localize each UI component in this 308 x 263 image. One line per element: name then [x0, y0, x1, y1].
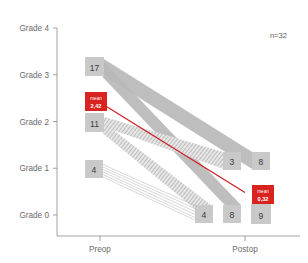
node-postop-grade0-a: 4 — [195, 205, 213, 223]
mean-marker-value: 0,32 — [258, 196, 269, 202]
node-label: 3 — [230, 157, 235, 167]
node-postop-grade0-b: 8 — [223, 205, 241, 223]
node-postop-grade0-c: 9 — [251, 204, 271, 224]
y-axis-label-grade0: Grade 0 — [19, 211, 49, 220]
node-label: 17 — [90, 63, 100, 73]
mean-marker-preop: mean 2,42 — [85, 92, 107, 111]
node-label: 4 — [202, 210, 207, 220]
slope-flow-chart: Grade 4 Grade 3 Grade 2 Grade 1 Grade 0 … — [0, 0, 308, 263]
mean-marker-title: mean — [257, 189, 269, 194]
node-label: 8 — [259, 157, 264, 167]
node-postop-grade1-b: 8 — [252, 152, 270, 170]
node-preop-grade1: 4 — [85, 160, 103, 178]
mean-marker-title: mean — [90, 96, 102, 101]
y-axis-label-grade3: Grade 3 — [19, 71, 49, 80]
node-label: 11 — [90, 119, 99, 129]
y-axis-label-grade4: Grade 4 — [19, 24, 49, 33]
x-axis-label-postop: Postop — [232, 245, 258, 254]
mean-marker-postop: mean 0,32 — [252, 185, 274, 204]
node-label: 8 — [230, 210, 235, 220]
sample-size-annotation: n=32 — [270, 31, 287, 40]
node-postop-grade1-a: 3 — [223, 152, 241, 170]
chart-canvas: Grade 4 Grade 3 Grade 2 Grade 1 Grade 0 … — [0, 0, 308, 263]
node-preop-grade2: 11 — [85, 113, 104, 132]
node-preop-grade3: 17 — [85, 57, 104, 76]
y-axis-label-grade2: Grade 2 — [19, 118, 49, 127]
node-label: 4 — [92, 165, 97, 175]
mean-marker-value: 2,42 — [91, 103, 102, 109]
x-axis-label-preop: Preop — [89, 245, 111, 254]
node-label: 9 — [259, 211, 264, 221]
y-axis-label-grade1: Grade 1 — [19, 164, 49, 173]
